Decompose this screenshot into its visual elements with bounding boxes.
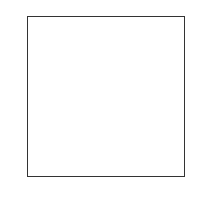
digit-image-heatmap — [28, 17, 184, 176]
image-axes — [27, 16, 185, 177]
